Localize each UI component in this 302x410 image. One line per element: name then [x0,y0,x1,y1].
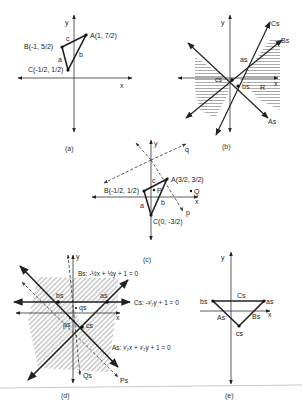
label-ps-point: ps [63,321,71,329]
label-bs-line: Bs [281,37,290,44]
label-as-point: as [100,292,108,299]
panel-c: y x q p P Q A(3/2, 3/2) B(-1/2, 1/2) C(0… [92,140,204,264]
point-c [66,68,69,71]
label-ps-line: Ps [120,377,129,384]
point-b [60,45,63,48]
point-as [105,300,109,304]
ray-p-back [136,143,151,160]
point-ps [69,317,71,319]
y-axis-label: y [154,140,158,148]
label-side-a: a [58,56,62,63]
label-cs-side: Cs [237,292,246,299]
label-point-c: C(-1/2, 1/2) [28,66,63,74]
label-as-point: as [266,298,274,305]
caption-a: (a) [65,145,74,153]
x-axis-label: x [268,311,272,318]
point-qs [75,307,77,309]
label-point-b: B(-1/2, 1/2) [104,187,139,195]
label-cs-point: cs [86,322,94,329]
label-q: q [185,146,189,154]
label-as-side: As [217,314,226,321]
point-cs [80,325,84,329]
point-cs [230,78,234,82]
y-axis-label: y [221,254,225,262]
label-point-b: B(-1, 5/2) [24,43,53,51]
label-bs-point: bs [242,83,250,90]
label-bs-point: bs [56,292,64,299]
point-bs [236,84,239,87]
panel-b: y x Cs Bs As as cs bs R (b) [178,15,290,151]
point-b [142,189,145,192]
shaded-region-right [240,40,280,110]
caption-c: (c) [143,256,151,264]
point-q [190,190,192,192]
label-bs-point: bs [200,298,208,305]
label-cs: Cs [271,20,280,27]
label-point-c: C(0, -3/2) [153,218,183,226]
point-p [153,189,155,191]
label-point-p: P [157,187,162,194]
label-qs-line: Qs [83,372,92,380]
label-p: p [186,209,190,217]
label-cs-point: cs [236,330,244,337]
label-bs-side: Bs [252,313,261,320]
panel-e: y x bs as cs Cs As Bs (e) [200,252,274,400]
label-side-c: c [66,35,70,42]
label-qs-point: qs [79,304,87,312]
label-point-a: A(3/2, 3/2) [171,176,204,184]
point-a [165,177,168,180]
label-as-point: as [240,56,248,63]
bottom-divider [0,385,302,388]
caption-d: (d) [61,392,70,400]
x-axis-label: x [120,82,124,89]
point-a [84,33,87,36]
y-axis-label: y [65,19,69,27]
point-bs [56,300,60,304]
panel-d: y x bs as cs qs ps Qs Ps Bs: -½x + ½y + … [14,253,179,400]
point-cs [237,324,240,327]
label-region-r: R [260,84,265,91]
label-as-line: As [268,118,277,125]
label-point-q: Q [194,188,200,196]
label-side-b: b [79,51,83,58]
label-cs-point: cs [215,76,223,83]
label-side-c: c [152,177,156,184]
x-axis-label: x [195,198,199,205]
label-side-a: a [140,202,144,209]
x-axis-label: x [274,80,278,87]
point-bs [211,299,214,302]
label-side-b: b [161,199,165,206]
label-point-a: A(1, 7/2) [90,32,117,40]
equation-as: As: ³⁄₂x + ³⁄₂y + 1 = 0 [112,344,171,352]
point-c [149,213,152,216]
caption-b: (b) [222,143,231,151]
y-axis-label: y [76,253,80,261]
caption-e: (e) [225,392,234,400]
x-axis-label: x [116,314,120,321]
ray-q-back [104,160,151,183]
equation-bs: Bs: -½x + ½y + 1 = 0 [78,270,139,278]
equation-cs: Cs: -³⁄₂y + 1 = 0 [134,299,179,307]
figure-canvas: y x A(1, 7/2) B(-1, 5/2) C(-1/2, 1/2) c … [0,0,302,410]
y-axis-label: y [221,19,225,27]
panel-a: y x A(1, 7/2) B(-1, 5/2) C(-1/2, 1/2) c … [18,15,132,153]
